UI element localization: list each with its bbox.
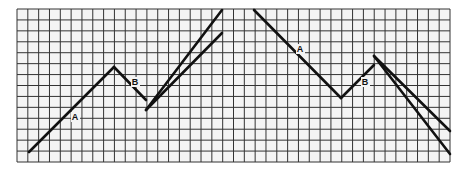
segment-label-b: B [132,77,139,87]
segment-label-b: B [362,77,369,87]
segment-label-a: A [72,112,79,122]
grid-diagram: AB AB [0,0,468,175]
grid-lines [17,9,450,162]
segment-label-a: A [297,44,304,54]
